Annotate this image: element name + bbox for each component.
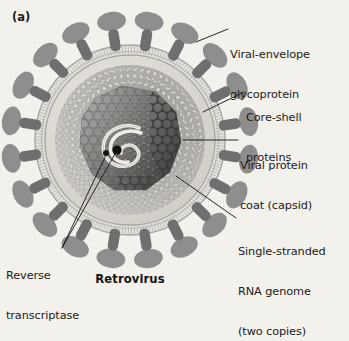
label-core-shell-line1: Core-shell: [246, 111, 302, 124]
panel-label: (a): [12, 10, 30, 24]
label-rna-line2: RNA genome: [238, 285, 326, 298]
label-reverse-transcriptase: Reverse transcriptase: [6, 243, 79, 341]
label-capsid-line1: Viral protein: [240, 159, 312, 172]
label-rna-line3: (two copies): [238, 325, 326, 338]
reverse-transcriptase-enzyme-1: [112, 145, 121, 154]
figure-caption: Retrovirus: [0, 272, 260, 286]
label-capsid-line2: coat (capsid): [240, 199, 312, 212]
label-rna-line1: Single-stranded: [238, 245, 326, 258]
label-envelope-glycoprotein-line1: Viral-envelope: [230, 48, 310, 61]
label-reverse-transcriptase-line2: transcriptase: [6, 309, 79, 322]
